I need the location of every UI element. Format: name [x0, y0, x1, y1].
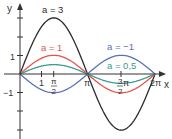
x-tick-3half-pi: π [123, 78, 129, 88]
series-label-a3: a = 3 [42, 4, 63, 15]
series-label-a05: a = 0,5 [107, 60, 136, 71]
x-tick-half-pi-num: π [51, 77, 57, 86]
sine-amplitude-chart: y x 1 −1 1 π 2 π 3 2 π 2π a = 3 a = 1 a … [0, 0, 172, 139]
y-axis-arrow-icon [17, 3, 23, 10]
y-tick-minus-1: −1 [3, 88, 13, 98]
y-tick-1: 1 [10, 52, 15, 62]
x-tick-1: 1 [39, 78, 44, 88]
x-tick-pi: π [84, 78, 90, 88]
series-label-a1: a = 1 [41, 42, 62, 53]
x-tick-3half-den: 2 [118, 87, 123, 96]
x-tick-half-pi-den: 2 [52, 87, 57, 96]
series-label-am1: a = −1 [107, 41, 134, 52]
y-axis-label: y [7, 3, 12, 14]
x-axis-label: x [164, 79, 169, 90]
x-tick-2pi: 2π [150, 78, 161, 88]
x-axis-arrow-icon [159, 71, 166, 77]
